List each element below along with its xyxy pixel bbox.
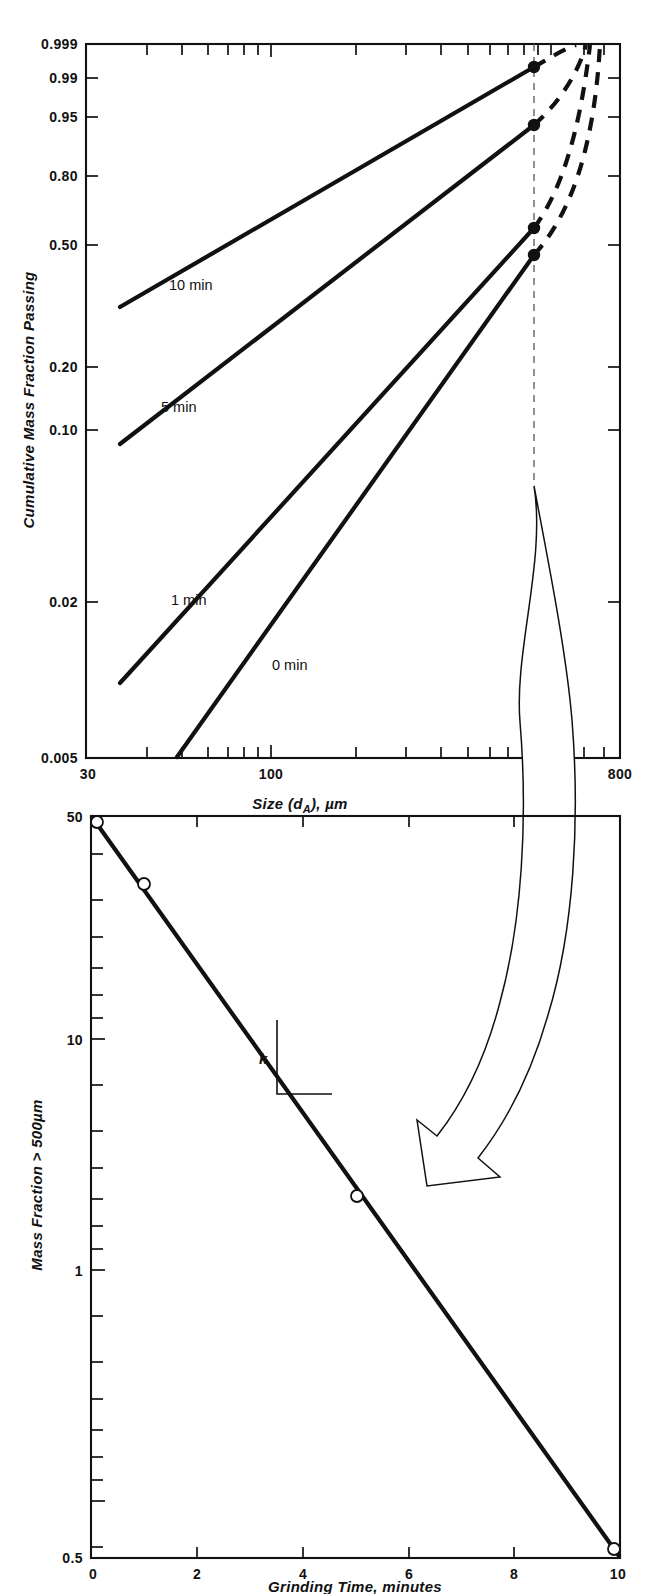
slope-label-k: k [259,1050,268,1067]
top-y-tick-label-0: 0.999 [41,36,78,52]
data-point-10min-500um [528,61,540,73]
top-y-tick-label-6: 0.10 [49,422,78,438]
data-point-5min-500um [528,119,540,131]
top-y-tick-label-1: 0.99 [49,70,78,86]
bottom-x-tick-label-4: 8 [510,1566,518,1582]
top-y-tick-label-8: 0.005 [41,750,78,766]
top-y-tick-label-5: 0.20 [49,359,78,375]
x-axis-title-lead: Size (d [252,795,303,812]
top-y-tick-label-4: 0.50 [49,237,78,253]
data-point-0min-500um [528,249,540,261]
bottom-x-tick-label-5: 10 [610,1566,626,1582]
curve-label-10min: 10 min [169,277,213,293]
bottom-y-tick-label-3: 0.5 [62,1550,83,1566]
x-axis-title-trail: ), µm [309,795,348,812]
scatter-point-t1 [138,878,150,890]
top-x-tick-label-right: 800 [608,766,633,782]
bottom-panel-y-axis-title: Mass Fraction > 500µm [28,1099,45,1270]
scatter-point-t0 [91,816,103,828]
scatter-point-t5 [351,1190,363,1202]
x-axis-title-sub: A [302,803,311,815]
bottom-y-tick-label-0: 50 [67,809,83,825]
top-y-tick-label-7: 0.02 [49,594,78,610]
top-y-tick-label-2: 0.95 [49,109,78,125]
curve-label-5min: 5 min [161,399,196,415]
top-x-tick-label-mid: 100 [259,766,284,782]
two-panel-grinding-figure: 0.999 0.99 0.95 0.80 0.50 0.20 0.10 0.02… [0,0,651,1594]
bottom-y-tick-label-2: 1 [75,1263,83,1279]
top-x-tick-label-left: 30 [80,766,96,782]
data-point-1min-500um [528,222,540,234]
bottom-panel-x-axis-title: Grinding Time, minutes [268,1578,442,1594]
figure-root: 0.999 0.99 0.95 0.80 0.50 0.20 0.10 0.02… [0,0,651,1594]
scatter-point-t10 [608,1543,620,1555]
curve-label-1min: 1 min [171,592,206,608]
bottom-y-tick-label-1: 10 [67,1032,83,1048]
bottom-x-tick-label-1: 2 [193,1566,201,1582]
bottom-x-tick-label-0: 0 [89,1566,97,1582]
curve-label-0min: 0 min [272,657,307,673]
top-panel-y-axis-title: Cumulative Mass Fraction Passing [20,271,37,528]
top-y-tick-label-3: 0.80 [49,168,78,184]
